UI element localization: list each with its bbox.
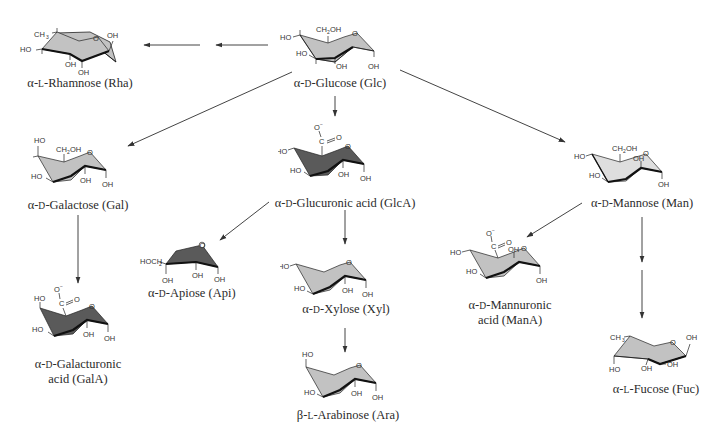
svg-text:O: O: [345, 142, 351, 151]
svg-text:OH: OH: [65, 60, 76, 69]
svg-text:OH: OH: [336, 62, 347, 71]
svg-text:HO: HO: [280, 262, 289, 271]
svg-text:HO: HO: [32, 325, 43, 334]
svg-text:−: −: [320, 124, 323, 127]
molecule-glucose: O HO CH2OH HO OH OH: [278, 14, 388, 80]
svg-text:HO: HO: [589, 171, 600, 180]
svg-text:HO: HO: [280, 33, 291, 42]
svg-text:HO: HO: [20, 45, 31, 54]
svg-text:OH: OH: [536, 276, 547, 285]
svg-text:C: C: [59, 299, 65, 308]
svg-text:HO: HO: [34, 294, 45, 303]
svg-text:HO: HO: [304, 388, 315, 397]
label-apiose: α-D-Apiose (Api): [148, 286, 232, 301]
svg-text:OH: OH: [667, 360, 678, 369]
label-glucuronic-acid: α-D-Glucuronic acid (GlcA): [272, 196, 418, 211]
svg-text:O: O: [346, 258, 352, 267]
svg-text:OH: OH: [214, 275, 225, 284]
svg-text:OH: OH: [372, 393, 383, 402]
svg-text:O: O: [336, 133, 342, 142]
svg-text:O: O: [89, 302, 95, 311]
svg-text:HO: HO: [34, 136, 45, 145]
svg-text:OH: OH: [338, 170, 349, 179]
ring-oxygen: O: [93, 34, 99, 43]
svg-text:OH: OH: [351, 389, 362, 398]
svg-text:OH: OH: [104, 334, 115, 343]
svg-text:HO: HO: [450, 248, 461, 257]
label-arabinose: β-L-Arabinose (Ara): [296, 408, 400, 423]
label-galacturonic-acid: α-D-Galacturonic acid (GalA): [28, 357, 128, 386]
svg-text:OH: OH: [633, 154, 644, 163]
svg-text:OH: OH: [626, 144, 637, 153]
svg-text:O: O: [352, 29, 358, 38]
molecule-galacturonic-acid: O C O O− HO HO OH OH: [30, 286, 140, 352]
svg-text:OH: OH: [70, 145, 81, 154]
svg-text:OH: OH: [368, 62, 379, 71]
svg-text:O: O: [521, 244, 527, 253]
svg-text:O: O: [356, 361, 362, 370]
svg-text:OH: OH: [102, 180, 113, 189]
label-galactose: α-D-Galactose (Gal): [26, 198, 130, 213]
svg-text:OH: OH: [508, 245, 519, 254]
svg-text:HO: HO: [294, 284, 305, 293]
molecule-glucuronic-acid: O C O O− HO HO OH OH: [278, 124, 388, 190]
svg-text:3: 3: [46, 34, 49, 40]
svg-text:OH: OH: [658, 180, 669, 189]
svg-text:HO: HO: [31, 172, 42, 181]
svg-text:OH: OH: [330, 25, 341, 34]
svg-text:OH: OH: [360, 174, 371, 183]
svg-text:CH: CH: [56, 145, 67, 154]
svg-text:CH: CH: [34, 30, 45, 39]
label-mannose: α-D-Mannose (Man): [590, 196, 694, 211]
label-xylose: α-D-Xylose (Xyl): [300, 302, 392, 317]
molecule-mannose: O HO CH2OH OH HO OH: [574, 134, 684, 200]
svg-text:OH: OH: [162, 276, 173, 285]
svg-text:HO: HO: [278, 147, 287, 156]
molecule-arabinose: O HO HO OH OH: [290, 350, 400, 416]
label-glucose: α-D-Glucose (Glc): [290, 76, 390, 91]
svg-text:O: O: [87, 148, 93, 157]
svg-text:OH: OH: [83, 330, 94, 339]
svg-text:CH: CH: [610, 333, 621, 342]
svg-text:OH: OH: [80, 176, 91, 185]
svg-text:HO: HO: [296, 49, 307, 58]
svg-text:O: O: [74, 295, 80, 304]
svg-text:HO: HO: [466, 267, 477, 276]
molecule-rhamnose: O CH3 OH HO OH OH: [14, 14, 124, 80]
arrow-glc-to-gal: [128, 72, 292, 146]
arrow-glc-to-man: [400, 70, 565, 142]
svg-text:O: O: [670, 338, 676, 347]
svg-text:HO: HO: [302, 350, 313, 359]
svg-text:OH: OH: [107, 31, 118, 40]
label-mannuronic-acid: α-D-Mannuronic acid (ManA): [460, 298, 560, 327]
svg-text:OH: OH: [686, 333, 697, 342]
svg-text:3: 3: [622, 337, 625, 343]
molecule-galactose: O HO CH2OH HO OH OH: [28, 132, 138, 198]
svg-text:HO: HO: [609, 365, 620, 374]
svg-text:OH: OH: [342, 286, 353, 295]
svg-text:HO: HO: [574, 152, 585, 161]
molecule-fucose: O CH3 OH HO OH OH: [604, 318, 714, 384]
molecule-mannuronic-acid: O C O O− OH HO HO OH: [450, 230, 560, 296]
svg-text:−: −: [60, 286, 63, 289]
svg-text:−: −: [492, 230, 495, 233]
svg-text:HO: HO: [290, 166, 301, 175]
label-rhamnose: α-L-Rhamnose (Rha): [24, 76, 136, 91]
arrow-glca-to-api: [220, 202, 269, 240]
svg-text:C: C: [319, 137, 325, 146]
svg-text:2: 2: [159, 261, 162, 267]
svg-text:O: O: [200, 241, 206, 250]
svg-text:CH: CH: [316, 25, 327, 34]
svg-text:OH: OH: [362, 290, 373, 299]
svg-text:CH: CH: [612, 144, 623, 153]
svg-text:C: C: [491, 242, 497, 251]
svg-text:OH: OH: [192, 271, 203, 280]
label-fucose: α-L-Fucose (Fuc): [606, 382, 706, 397]
svg-text:OH: OH: [641, 364, 652, 373]
